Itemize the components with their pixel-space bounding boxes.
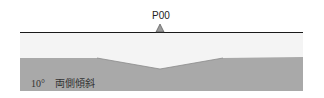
slope-label: 10° 両側傾斜 — [31, 75, 95, 90]
station-label: P00 — [152, 10, 170, 21]
station-marker-icon — [156, 24, 164, 32]
